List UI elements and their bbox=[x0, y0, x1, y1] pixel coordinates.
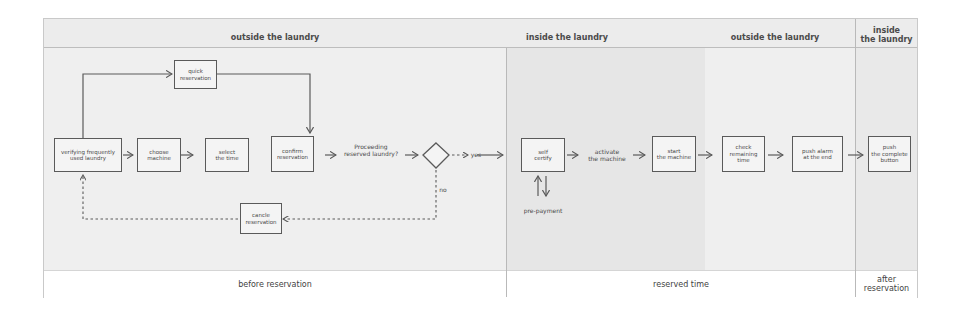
node-cancel-reservation: canclereservation bbox=[240, 203, 282, 234]
label-pre-payment: pre-payment bbox=[516, 207, 570, 214]
node-check-remaining-time: checkremainingtime bbox=[722, 136, 765, 172]
label-text: Proceeding bbox=[336, 143, 406, 150]
decision-diamond bbox=[423, 143, 449, 168]
node-push-the-complete-button: pushthe completebutton bbox=[868, 136, 911, 172]
label-yes: yes bbox=[469, 151, 483, 158]
node-text: the time bbox=[215, 155, 238, 162]
label-text: the machine bbox=[578, 155, 636, 162]
node-text: the machine bbox=[657, 154, 691, 161]
node-text: reservation bbox=[180, 75, 211, 82]
node-text: machine bbox=[147, 155, 171, 162]
node-text: button bbox=[871, 157, 907, 164]
node-text: reservation bbox=[245, 219, 276, 226]
node-text: time bbox=[730, 157, 758, 164]
node-confirm-reservation: confirmreservation bbox=[271, 136, 314, 172]
node-text: reservation bbox=[277, 154, 308, 161]
node-verifying-frequently-used-laundry: verifying frequentlyused laundry bbox=[54, 138, 122, 172]
node-choose-machine: choosemachine bbox=[137, 138, 181, 172]
node-push-alarm-at-the-end: push alarmat the end bbox=[792, 136, 843, 172]
node-start-the-machine: startthe machine bbox=[652, 136, 696, 172]
label-no: no bbox=[436, 186, 450, 193]
node-text: used laundry bbox=[61, 155, 115, 162]
node-text: at the end bbox=[802, 154, 833, 161]
label-activate-the-machine: activate the machine bbox=[578, 148, 636, 162]
label-text: reserved laundry? bbox=[336, 150, 406, 157]
node-text: certify bbox=[534, 155, 551, 162]
node-select-the-time: selectthe time bbox=[205, 138, 249, 172]
label-proceeding-reserved-laundry: Proceeding reserved laundry? bbox=[336, 143, 406, 157]
node-self-certify: selfcertify bbox=[521, 138, 565, 172]
node-quick-reservation: quickreservation bbox=[174, 60, 217, 89]
label-text: activate bbox=[578, 148, 636, 155]
